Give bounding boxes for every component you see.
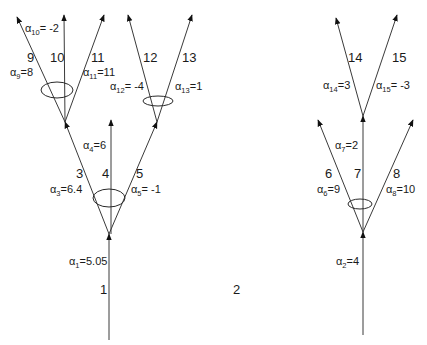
tree-diagram: 9 10 11 12 13 3 4 5 1 α10= -2 α9=8 α11=1… — [0, 0, 427, 345]
edge-label: 15 — [392, 50, 406, 65]
alpha-label: α1=5.05 — [69, 255, 107, 270]
alpha-label: α14=3 — [323, 79, 350, 94]
alpha-label: α9=8 — [10, 66, 33, 81]
alpha-label: α5= -1 — [131, 183, 161, 198]
alpha-label: α3=6.4 — [50, 183, 82, 198]
junction-ellipse-3 — [143, 96, 173, 106]
edge-label: 1 — [100, 282, 107, 297]
edge-label: 4 — [102, 166, 109, 181]
edge-label: 8 — [393, 166, 400, 181]
edge-label: 14 — [348, 50, 362, 65]
alpha-label: α12= -4 — [110, 80, 144, 95]
edge-label: 12 — [143, 50, 157, 65]
edge-15 — [363, 15, 397, 116]
edge-label: 3 — [76, 166, 83, 181]
tree-1: 9 10 11 12 13 3 4 5 1 α10= -2 α9=8 α11=1… — [10, 15, 202, 340]
alpha-label: α7=2 — [335, 139, 358, 154]
edge-label: 9 — [27, 50, 34, 65]
junction-ellipse-2 — [41, 82, 73, 98]
edge-label: 5 — [136, 166, 143, 181]
edge-10 — [64, 15, 65, 122]
alpha-label: α6=9 — [317, 183, 340, 198]
edge-label: 7 — [354, 166, 361, 181]
alpha-label: α4=6 — [83, 139, 106, 154]
alpha-label: α10= -2 — [25, 22, 59, 37]
alpha-label: α8=10 — [386, 183, 415, 198]
edge-5 — [109, 122, 157, 234]
edge-8 — [363, 120, 413, 232]
edge-label: 10 — [50, 50, 64, 65]
edge-label: 13 — [182, 50, 196, 65]
edge-label: 11 — [91, 50, 105, 65]
alpha-label: α13=1 — [175, 80, 202, 95]
edge-label: 6 — [325, 166, 332, 181]
alpha-label: α2=4 — [336, 255, 359, 270]
edge-14 — [336, 18, 363, 116]
tree-label: 2 — [233, 282, 240, 297]
junction-ellipse-1 — [93, 189, 125, 207]
tree-2: 14 15 6 7 8 α14=3 α15= -3 α7=2 α6=9 α8=1… — [317, 15, 415, 335]
alpha-label: α11=11 — [83, 66, 115, 81]
alpha-label: α15= -3 — [376, 79, 410, 94]
